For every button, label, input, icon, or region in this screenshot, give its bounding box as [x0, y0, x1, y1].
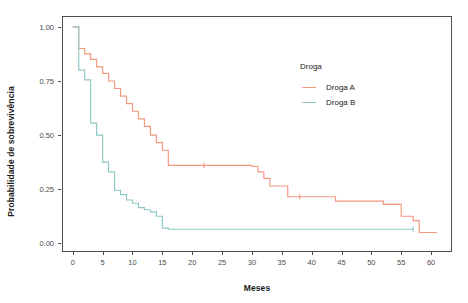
legend-swatch [302, 102, 316, 104]
y-tick-mark [58, 243, 61, 244]
x-tick-label: 40 [307, 258, 315, 267]
x-tick-label: 20 [188, 258, 196, 267]
x-tick-mark [401, 252, 402, 255]
legend-color-key [300, 96, 318, 109]
x-tick-label: 5 [101, 258, 105, 267]
survival-chart: Probabilidade de sobrevivência 0.000.250… [0, 0, 468, 303]
chart-legend: Droga Droga ADroga B [300, 62, 355, 110]
legend-item[interactable]: Droga A [300, 80, 355, 95]
y-tick-label: 0.75 [28, 76, 54, 85]
plot-area-svg [62, 16, 452, 252]
x-tick-label: 55 [397, 258, 405, 267]
y-tick-label: 0.50 [28, 131, 54, 140]
x-tick-mark [103, 252, 104, 255]
x-tick-label: 30 [248, 258, 256, 267]
y-tick-mark [58, 189, 61, 190]
x-tick-mark [192, 252, 193, 255]
y-axis-title: Probabilidade de sobrevivência [0, 0, 22, 303]
x-tick-mark [252, 252, 253, 255]
y-tick-label: 0.25 [28, 185, 54, 194]
x-tick-mark [371, 252, 372, 255]
x-tick-mark [132, 252, 133, 255]
x-tick-label: 15 [158, 258, 166, 267]
x-tick-mark [431, 252, 432, 255]
x-tick-mark [282, 252, 283, 255]
x-tick-label: 0 [71, 258, 75, 267]
x-tick-label: 10 [128, 258, 136, 267]
series-layer [73, 27, 437, 233]
legend-item[interactable]: Droga B [300, 95, 355, 110]
y-tick-label: 0.00 [28, 239, 54, 248]
x-axis-title: Meses [62, 283, 452, 293]
series-line [73, 27, 413, 229]
x-tick-label: 50 [367, 258, 375, 267]
x-tick-label: 35 [278, 258, 286, 267]
legend-swatch [302, 87, 316, 89]
y-tick-mark [58, 81, 61, 82]
legend-items: Droga ADroga B [300, 80, 355, 110]
x-tick-label: 25 [218, 258, 226, 267]
y-tick-label: 1.00 [28, 22, 54, 31]
y-tick-mark [58, 27, 61, 28]
x-tick-mark [162, 252, 163, 255]
x-tick-mark [342, 252, 343, 255]
y-tick-mark [58, 135, 61, 136]
x-tick-label: 45 [337, 258, 345, 267]
legend-title: Droga [300, 62, 355, 71]
x-tick-mark [312, 252, 313, 255]
x-tick-label: 60 [427, 258, 435, 267]
series-line [73, 27, 437, 233]
legend-color-key [300, 81, 318, 94]
legend-item-label: Droga B [326, 98, 355, 107]
x-tick-mark [73, 252, 74, 255]
x-tick-mark [222, 252, 223, 255]
legend-item-label: Droga A [326, 83, 355, 92]
